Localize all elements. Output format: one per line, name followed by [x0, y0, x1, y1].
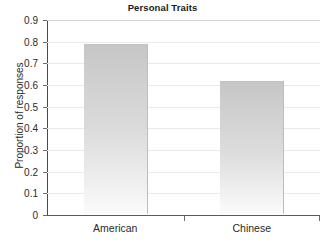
plot-area: 0.90.80.70.60.50.40.30.20.10: [47, 20, 320, 215]
gridline: [47, 20, 320, 21]
y-axis-tick: [43, 150, 47, 151]
x-axis-tick: [319, 216, 320, 221]
gridline: [47, 42, 320, 43]
y-axis-tick-label: 0.9: [0, 15, 38, 26]
y-axis-tick: [43, 20, 47, 21]
y-axis-tick: [43, 107, 47, 108]
y-axis-tick: [43, 193, 47, 194]
y-axis-tick: [43, 42, 47, 43]
y-axis-tick: [43, 215, 47, 216]
y-axis-tick-label: 0.5: [0, 101, 38, 112]
bar-chart: Personal Traits Proportion of responses …: [0, 0, 325, 245]
y-axis-tick-label: 0.7: [0, 58, 38, 69]
chart-title: Personal Traits: [0, 2, 325, 13]
y-axis-tick: [43, 172, 47, 173]
bar-chinese[interactable]: [220, 81, 284, 214]
y-axis-tick-label: 0.2: [0, 166, 38, 177]
x-axis-tick: [184, 216, 185, 221]
bar-american[interactable]: [84, 44, 148, 214]
y-axis-tick-label: 0.4: [0, 123, 38, 134]
y-axis-tick-label: 0.1: [0, 188, 38, 199]
y-axis-tick: [43, 85, 47, 86]
y-axis-tick-label: 0: [0, 210, 38, 221]
y-axis-tick: [43, 128, 47, 129]
y-axis-line: [47, 20, 48, 216]
y-axis-tick-label: 0.8: [0, 36, 38, 47]
x-axis-category-label: Chinese: [232, 222, 271, 234]
y-axis-tick: [43, 63, 47, 64]
y-axis-tick-label: 0.3: [0, 145, 38, 156]
y-axis-tick-label: 0.6: [0, 80, 38, 91]
x-axis-category-label: American: [93, 222, 137, 234]
